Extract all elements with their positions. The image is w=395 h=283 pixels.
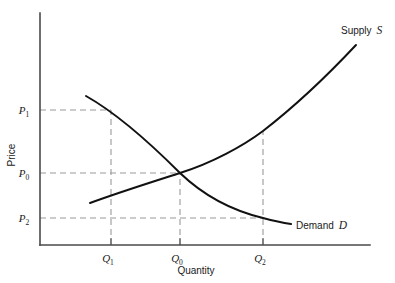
supply-curve-label: SupplyS (341, 24, 383, 36)
demand-label-symbol: D (338, 219, 348, 231)
y-tick-label-p2: P2 (18, 212, 30, 227)
guide-lines (40, 110, 263, 245)
demand-curve-label: DemandD (296, 219, 348, 231)
demand-label-text: Demand (296, 220, 334, 231)
x-tick-label-q2: Q2 (254, 252, 266, 267)
demand-curve (86, 96, 291, 224)
supply-label-text: Supply (341, 25, 372, 36)
chart-canvas: P1 P0 P2 Q1 Q0 Q2 Quantity Price (0, 0, 395, 283)
x-axis-title: Quantity (177, 265, 214, 276)
axes (40, 13, 370, 245)
supply-demand-chart: P1 P0 P2 Q1 Q0 Q2 Quantity Price (0, 0, 395, 283)
y-tick-label-p1: P1 (18, 104, 30, 119)
y-axis-title: Price (6, 143, 17, 166)
x-axis-ticks (111, 238, 263, 245)
svg-text:SupplyS: SupplyS (341, 24, 383, 36)
y-tick-label-p0: P0 (18, 167, 30, 182)
supply-curve (90, 45, 356, 203)
svg-text:DemandD: DemandD (296, 219, 348, 231)
curves (86, 45, 356, 224)
y-axis-tick-labels: P1 P0 P2 (18, 104, 30, 227)
supply-label-symbol: S (377, 24, 383, 36)
x-tick-label-q1: Q1 (102, 252, 114, 267)
